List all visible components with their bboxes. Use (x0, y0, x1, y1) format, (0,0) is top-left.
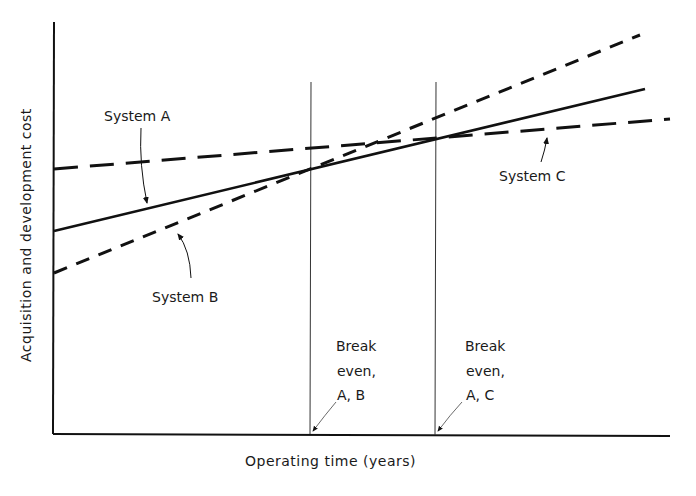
series-system-b (54, 35, 640, 273)
series-system-c (54, 119, 670, 169)
arrow-system-c (541, 138, 547, 162)
arrow-system-b (178, 234, 191, 278)
label-break-even-ac-3: A, C (466, 387, 494, 403)
label-break-even-ab-3: A, B (337, 387, 365, 403)
arrow-system-a (141, 128, 147, 203)
x-axis-label: Operating time (years) (245, 453, 416, 469)
label-system-a: System A (104, 108, 171, 124)
break-even-ac-line (435, 82, 436, 435)
y-axis-label: Acquisition and development cost (18, 108, 34, 362)
label-break-even-ab-2: even, (337, 363, 376, 379)
x-axis (53, 434, 670, 436)
y-axis (53, 22, 54, 434)
label-break-even-ab-1: Break (336, 338, 377, 354)
label-system-b: System B (152, 289, 218, 305)
chart: System A System B System C Break even, A… (0, 0, 696, 496)
label-break-even-ac-2: even, (466, 363, 505, 379)
arrow-break-even-ac (438, 402, 462, 431)
label-break-even-ac-1: Break (465, 338, 506, 354)
label-system-c: System C (499, 168, 566, 184)
arrow-break-even-ab (313, 402, 336, 431)
break-even-ab-line (310, 82, 311, 434)
